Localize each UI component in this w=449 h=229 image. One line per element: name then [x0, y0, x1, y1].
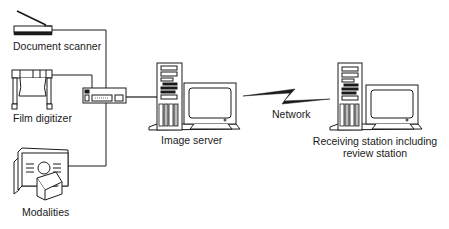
- film-digitizer-icon: [12, 70, 52, 109]
- network-label: Network: [272, 108, 311, 120]
- document-scanner-label: Document scanner: [13, 40, 101, 52]
- digitizer-link: [52, 75, 92, 88]
- modalities-link: [68, 103, 106, 166]
- network-lightning-icon: [243, 89, 330, 104]
- modalities-icon: [14, 148, 68, 200]
- document-scanner-icon: [14, 11, 52, 35]
- image-server-icon: [149, 63, 240, 130]
- receiving-station-icon: [330, 63, 422, 130]
- receiving-station-label-line2: review station: [310, 147, 440, 159]
- image-server-label: Image server: [161, 134, 222, 146]
- film-digitizer-label: Film digitizer: [13, 112, 72, 124]
- network-hub-icon: [83, 88, 126, 103]
- receiving-station-label-line1: Receiving station including: [310, 135, 440, 147]
- scanner-link: [52, 30, 106, 88]
- modalities-label: Modalities: [22, 206, 69, 218]
